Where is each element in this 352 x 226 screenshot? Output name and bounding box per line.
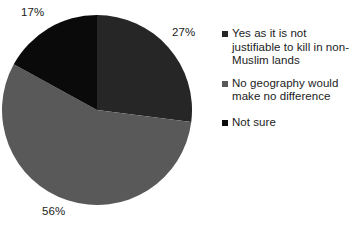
chart-title-clipped (0, 0, 352, 5)
legend-item-not-sure[interactable]: Not sure (222, 116, 350, 130)
pie-plot-area (2, 15, 192, 205)
legend-label-not-sure: Not sure (232, 116, 276, 130)
legend-label-no-geography: No geography would make no difference (232, 77, 350, 104)
legend-swatch-icon-not-sure (222, 120, 228, 126)
legend-label-yes: Yes as it is not justifiable to kill in … (232, 27, 350, 68)
pie-data-label-no-geography: 56% (42, 205, 65, 217)
chart-legend: Yes as it is not justifiable to kill in … (222, 27, 350, 138)
pie-svg (2, 15, 192, 205)
legend-swatch-icon-yes (222, 31, 228, 37)
legend-swatch-icon-no-geography (222, 81, 228, 87)
legend-item-no-geography[interactable]: No geography would make no difference (222, 77, 350, 104)
pie-data-label-not-sure: 17% (21, 6, 44, 18)
pie-data-label-yes: 27% (172, 26, 195, 38)
legend-item-yes[interactable]: Yes as it is not justifiable to kill in … (222, 27, 350, 68)
pie-chart-figure: 27% 56% 17% Yes as it is not justifiable… (0, 0, 352, 226)
pie-slices (2, 15, 192, 205)
